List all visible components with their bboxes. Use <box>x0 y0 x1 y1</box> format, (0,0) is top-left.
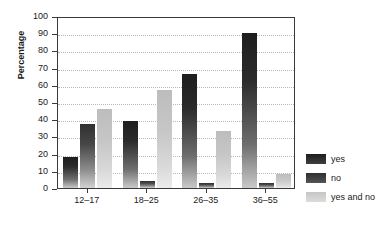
x-tick-mark <box>87 189 88 193</box>
bar-yes-18-25 <box>123 121 138 188</box>
bar-chart: Percentage 0102030405060708090100 12–171… <box>0 0 389 229</box>
y-tick-label: 30 <box>38 131 48 141</box>
x-tick-label: 18–25 <box>134 195 159 205</box>
bar-yes-26-35 <box>182 74 197 188</box>
y-tick-label: 40 <box>38 114 48 124</box>
x-tick-mark <box>265 189 266 193</box>
legend-label: yes and no <box>331 192 375 202</box>
x-tick-label: 36–55 <box>253 195 278 205</box>
bar-yes-and-no-12-17 <box>97 109 112 188</box>
y-tick-label: 100 <box>33 11 48 21</box>
y-tick-label: 60 <box>38 80 48 90</box>
legend-label: no <box>331 173 341 183</box>
bar-yes-and-no-18-25 <box>157 90 172 188</box>
bars-layer <box>58 18 294 188</box>
y-axis-ticks: 0102030405060708090100 <box>0 17 57 189</box>
y-tick-label: 50 <box>38 97 48 107</box>
bar-yes-and-no-26-35 <box>216 131 231 188</box>
bar-no-26-35 <box>199 183 214 188</box>
bar-yes-36-55 <box>242 33 257 188</box>
y-tick-label: 90 <box>38 28 48 38</box>
y-tick-label: 10 <box>38 166 48 176</box>
x-axis-ticks: 12–1718–2526–3536–55 <box>57 189 295 213</box>
legend-item-yes-and-no[interactable]: yes and no <box>306 188 389 205</box>
plot-area <box>57 17 295 189</box>
legend-item-no[interactable]: no <box>306 169 389 186</box>
bar-yes-12-17 <box>63 157 78 188</box>
legend-swatch-icon <box>306 173 326 183</box>
bar-no-36-55 <box>259 183 274 188</box>
y-tick-label: 70 <box>38 63 48 73</box>
x-tick-label: 12–17 <box>74 195 99 205</box>
y-tick-label: 20 <box>38 149 48 159</box>
bar-no-12-17 <box>80 124 95 188</box>
legend-item-yes[interactable]: yes <box>306 150 389 167</box>
x-tick-mark <box>206 189 207 193</box>
y-tick-label: 0 <box>43 183 48 193</box>
legend-swatch-icon <box>306 154 326 164</box>
legend: yesnoyes and no <box>306 150 389 207</box>
x-tick-mark <box>146 189 147 193</box>
bar-yes-and-no-36-55 <box>276 174 291 188</box>
y-tick-label: 80 <box>38 45 48 55</box>
legend-label: yes <box>331 154 345 164</box>
bar-no-18-25 <box>140 181 155 188</box>
legend-swatch-icon <box>306 192 326 202</box>
x-tick-label: 26–35 <box>193 195 218 205</box>
